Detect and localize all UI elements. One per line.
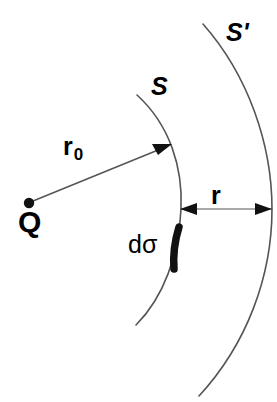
diagram-background <box>0 0 277 402</box>
label-gap-radius-r: r <box>211 183 221 208</box>
label-radius-r0: r0 <box>63 134 83 163</box>
label-area-element: dσ <box>128 232 157 257</box>
label-charge-q: Q <box>18 207 41 237</box>
label-surface-s: S <box>151 74 168 99</box>
label-surface-s-prime: S' <box>226 20 249 45</box>
label-radius-r0-base: r <box>63 132 73 160</box>
physics-diagram <box>0 0 277 402</box>
label-radius-r0-subscript: 0 <box>74 145 83 164</box>
